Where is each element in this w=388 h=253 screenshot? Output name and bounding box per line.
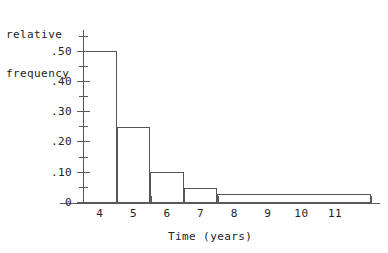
y-tick-label-040: .40 — [42, 75, 72, 88]
x-tick-label-6: 6 — [157, 207, 177, 220]
x-tick-label-7: 7 — [191, 207, 211, 220]
x-tick-6-5 — [184, 196, 185, 203]
histogram-bar-5 — [217, 194, 371, 204]
x-axis-title: Time (years) — [168, 230, 252, 243]
x-tick-5-5 — [150, 196, 151, 203]
x-tick-label-5: 5 — [123, 207, 143, 220]
x-tick-11-5 — [371, 196, 372, 203]
x-tick-label-4: 4 — [90, 207, 110, 220]
histogram-bar-4 — [184, 188, 218, 204]
histogram-bar-1 — [83, 51, 117, 203]
histogram-chart: relative frequency .50 .40 .30 .20 .10 0 — [0, 0, 388, 253]
y-tick-label-000: 0 — [42, 196, 72, 209]
x-tick-label-11: 11 — [325, 207, 345, 220]
x-tick-label-9: 9 — [258, 207, 278, 220]
x-tick-3-5 — [83, 196, 84, 203]
x-tick-label-8: 8 — [224, 207, 244, 220]
histogram-bar-3 — [150, 172, 184, 203]
y-tick-minor-055 — [79, 36, 88, 37]
x-tick-label-10: 10 — [291, 207, 311, 220]
y-tick-label-030: .30 — [42, 105, 72, 118]
x-tick-4-5 — [117, 196, 118, 203]
x-tick-7-5 — [217, 196, 218, 203]
histogram-bar-2 — [117, 127, 151, 204]
y-tick-label-020: .20 — [42, 135, 72, 148]
y-tick-label-050: .50 — [42, 45, 72, 58]
y-tick-label-010: .10 — [42, 166, 72, 179]
plot-area: .50 .40 .30 .20 .10 0 4 5 6 7 8 9 10 11 … — [0, 0, 388, 253]
